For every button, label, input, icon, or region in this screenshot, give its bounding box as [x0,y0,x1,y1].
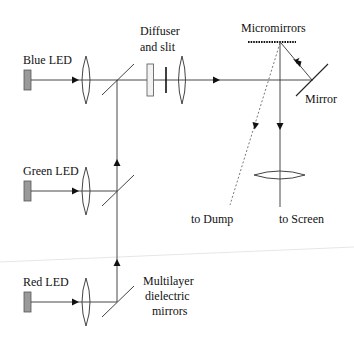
mirror-label: Mirror [305,92,337,106]
red-led: Red LED [23,275,69,312]
projection-lens-icon [254,171,305,179]
blue-dichroic-mirror-icon [102,64,134,95]
micromirrors-label: Micromirrors [241,21,306,35]
arrow-down-icon [277,123,284,130]
red-led-label: Red LED [23,275,69,289]
arrow-up-icon [114,159,121,166]
blue-led-label: Blue LED [23,53,72,67]
svg-text:Multilayer: Multilayer [143,274,194,288]
dichroic-label: Multilayer dielectric mirrors [143,274,194,318]
optical-diagram: Blue LED Green LED Red LED Multilayer di… [0,0,354,342]
svg-text:dielectric: dielectric [145,289,190,303]
red-led-icon [24,292,31,312]
svg-text:Diffuser: Diffuser [140,24,180,38]
to-dump-label: to Dump [191,212,233,226]
arrow-right-icon [72,77,79,84]
blue-led-icon [24,70,31,90]
scan-artifact-line [0,247,354,262]
arrow-right-icon [72,299,79,306]
arrow-right-icon [213,77,220,84]
arrow-right-icon [72,188,79,195]
green-led: Green LED [23,164,79,201]
blue-led: Blue LED [23,53,72,90]
to-screen-label: to Screen [279,212,324,226]
diffuser-icon [147,64,154,96]
svg-text:and slit: and slit [140,40,176,54]
green-dichroic-mirror-icon [102,175,134,206]
red-dichroic-mirror-icon [102,286,134,317]
diffuser-label: Diffuser and slit [140,24,180,54]
arrow-up-icon [114,259,121,266]
green-led-label: Green LED [23,164,79,178]
svg-text:mirrors: mirrors [152,304,188,318]
green-led-icon [24,181,31,201]
